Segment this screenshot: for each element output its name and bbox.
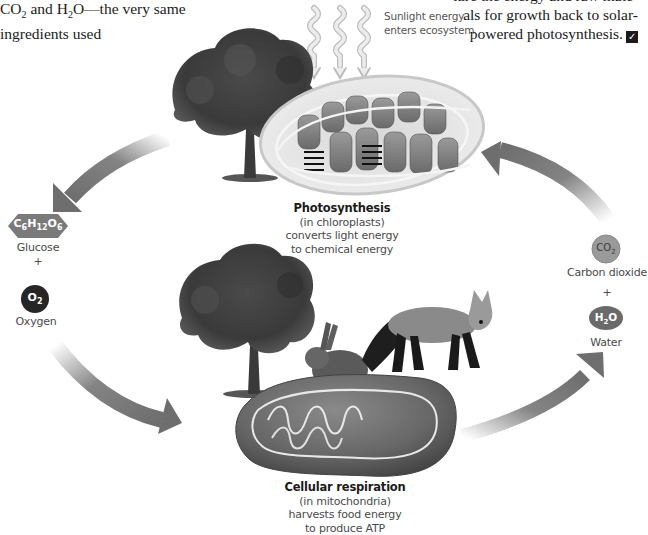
fox-icon bbox=[362, 290, 492, 372]
sunlight-label-line1: Sunlight energy bbox=[384, 10, 474, 24]
oxygen-label: Oxygen bbox=[0, 315, 72, 329]
carbon-dioxide-label-text: Carbon dioxide bbox=[566, 266, 648, 280]
glucose-formula: C6H12O6 bbox=[8, 217, 68, 232]
sunlight-wave-icons bbox=[308, 8, 370, 78]
carbon-dioxide-formula: CO2 bbox=[592, 242, 620, 256]
water-label: Water bbox=[586, 336, 626, 350]
respiration-line2: harvests food energy bbox=[282, 508, 408, 522]
respiration-title: Cellular respiration bbox=[282, 481, 408, 495]
respiration-label: Cellular respiration (in mitochondria) h… bbox=[282, 481, 408, 535]
plus-sign-right: + bbox=[566, 286, 648, 300]
carbon-dioxide-label: Carbon dioxide + bbox=[566, 266, 648, 299]
tree-bottom-icon bbox=[179, 244, 315, 398]
arrow-to-chloroplast bbox=[481, 141, 608, 220]
glucose-label-text: Glucose bbox=[0, 241, 76, 255]
mitochondrion-illustration bbox=[236, 375, 456, 477]
photosynthesis-line1: (in chloroplasts) bbox=[284, 216, 400, 230]
photosynthesis-line2: converts light energy bbox=[284, 229, 400, 243]
photosynthesis-line3: to chemical energy bbox=[284, 243, 400, 257]
sunlight-label: Sunlight energy enters ecosystem bbox=[384, 10, 474, 37]
photosynthesis-title: Photosynthesis bbox=[284, 202, 400, 216]
oxygen-formula: O2 bbox=[21, 291, 49, 306]
arrow-to-carbon-dioxide bbox=[462, 352, 604, 436]
respiration-line1: (in mitochondria) bbox=[282, 495, 408, 509]
plus-sign-left: + bbox=[0, 255, 76, 269]
photosynthesis-label: Photosynthesis (in chloroplasts) convert… bbox=[284, 202, 400, 256]
arrow-to-glucose bbox=[53, 138, 168, 212]
glucose-label: Glucose + bbox=[0, 241, 76, 268]
water-formula: H2O bbox=[589, 311, 623, 326]
sunlight-label-line2: enters ecosystem bbox=[384, 24, 474, 38]
respiration-line3: to produce ATP bbox=[282, 522, 408, 535]
arrow-to-mitochondria bbox=[55, 345, 182, 434]
